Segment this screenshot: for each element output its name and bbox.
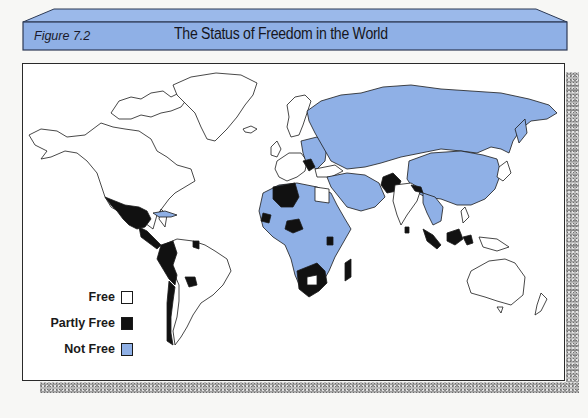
kenya-area: [327, 237, 333, 245]
central-america: [139, 227, 161, 249]
canada-arctic-islands: [111, 91, 187, 119]
legend-swatch-partly-free: [121, 317, 133, 330]
frame-shadow-right: [566, 72, 579, 392]
senegal: [261, 213, 271, 223]
frame-shadow-bottom: [40, 382, 579, 393]
legend-label: Free: [89, 290, 115, 304]
legend-label: Not Free: [64, 342, 115, 356]
map-frame: Free Partly Free Not Free: [22, 63, 565, 381]
china-mongolia: [407, 151, 501, 205]
australia: [467, 259, 525, 305]
western-europe: [275, 153, 307, 181]
legend-swatch-free: [121, 291, 133, 304]
legend-item-partly-free: Partly Free: [0, 316, 133, 330]
botswana: [307, 275, 317, 285]
sri-lanka: [405, 227, 409, 233]
iceland: [243, 126, 257, 133]
indonesia-borneo: [447, 229, 463, 245]
tasmania: [497, 307, 503, 313]
new-zealand: [535, 293, 547, 315]
scandinavia: [287, 95, 311, 137]
figure-label: Figure 7.2: [34, 29, 90, 43]
world-map: [23, 64, 564, 380]
legend-item-not-free: Not Free: [0, 342, 133, 356]
egypt: [315, 187, 329, 203]
colombia-peru: [157, 241, 177, 285]
indonesia-east: [463, 235, 473, 245]
legend-item-free: Free: [0, 290, 133, 304]
new-guinea: [479, 237, 509, 251]
figure-banner: Figure 7.2 The Status of Freedom in the …: [22, 8, 568, 50]
philippines: [461, 207, 469, 223]
korea-japan: [497, 161, 511, 181]
madagascar: [345, 259, 351, 281]
uk: [271, 141, 281, 157]
morocco-algeria: [273, 183, 299, 207]
indonesia-west: [423, 229, 441, 249]
legend-swatch-not-free: [121, 343, 133, 356]
legend-label: Partly Free: [50, 316, 115, 330]
figure-title: The Status of Freedom in the World: [174, 25, 388, 43]
